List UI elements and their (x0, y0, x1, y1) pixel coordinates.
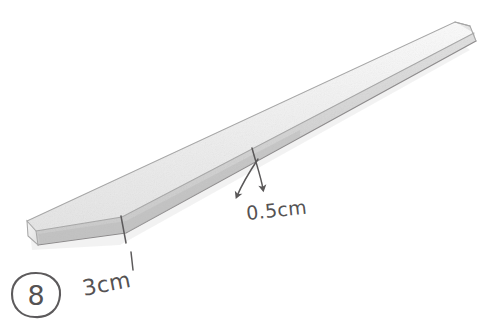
figure-canvas: 3cm 0.5cm 8 (0, 0, 486, 331)
width-label: 3cm (80, 267, 133, 301)
strip-diagram-svg: 3cm 0.5cm 8 (0, 0, 486, 331)
question-number-marker: 8 (12, 273, 60, 317)
strip-top-face (27, 22, 474, 231)
question-number-text: 8 (27, 280, 44, 311)
thickness-label: 0.5cm (245, 196, 308, 224)
width-leader-dash (131, 252, 133, 270)
